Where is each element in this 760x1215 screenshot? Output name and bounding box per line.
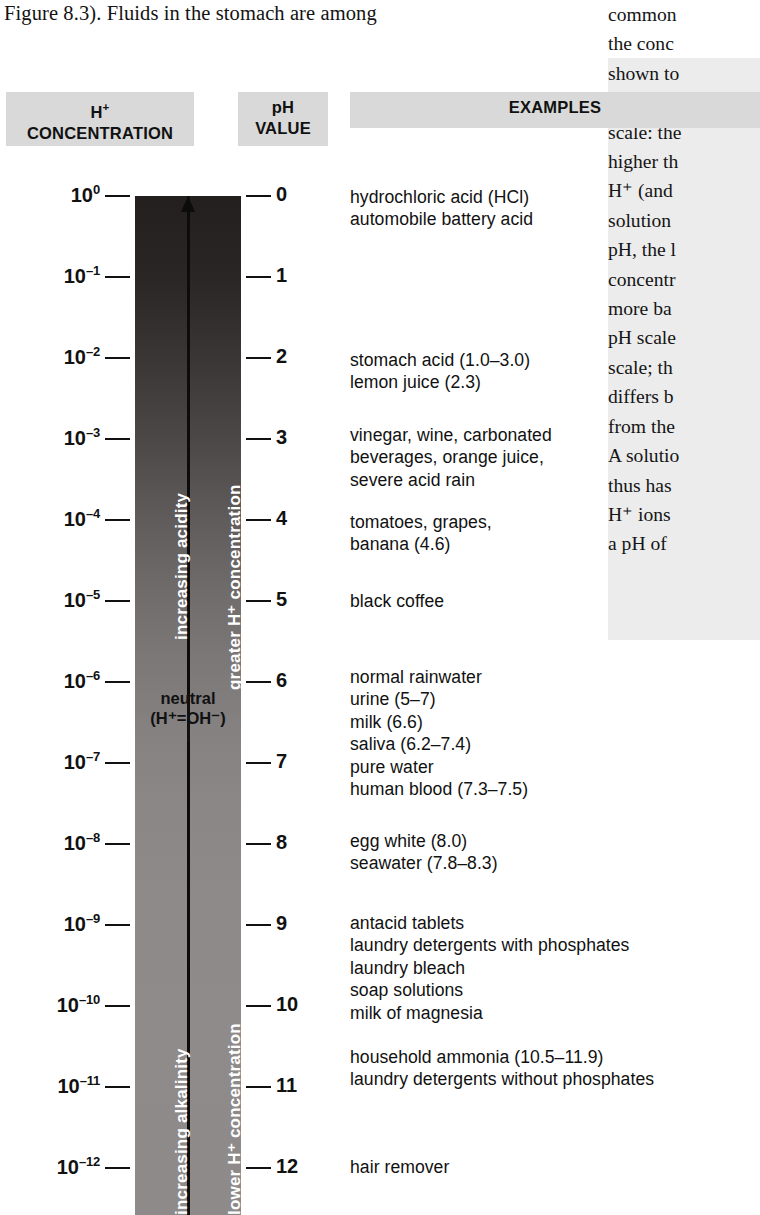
tick-right [246, 1086, 271, 1088]
concentration-exponent: –3 [86, 425, 100, 440]
concentration-label: 10–9 [0, 911, 100, 936]
concentration-exponent: –1 [86, 263, 100, 278]
example-line: black coffee [350, 590, 760, 612]
ph-value-label: 9 [276, 912, 322, 935]
example-block: tomatoes, grapes,banana (4.6) [350, 511, 760, 556]
ph-value-label: 3 [276, 426, 322, 449]
example-line: beverages, orange juice, [350, 446, 760, 468]
tick-left [105, 1005, 130, 1007]
concentration-mantissa: 10 [64, 832, 86, 854]
concentration-label: 10–7 [0, 749, 100, 774]
example-line: hydrochloric acid (HCl) [350, 186, 760, 208]
example-block: hydrochloric acid (HCl)automobile batter… [350, 186, 760, 231]
tick-right [246, 762, 271, 764]
example-block: vinegar, wine, carbonatedbeverages, oran… [350, 424, 760, 491]
label-greater-h-concentration: greater H⁺ concentration [224, 484, 245, 690]
concentration-mantissa: 10 [64, 346, 86, 368]
concentration-exponent: –2 [86, 344, 100, 359]
concentration-mantissa: 10 [57, 994, 79, 1016]
increasing-acidity-arrow-head [181, 196, 195, 212]
concentration-mantissa: 10 [71, 184, 93, 206]
concentration-mantissa: 10 [64, 589, 86, 611]
ph-value-label: 8 [276, 831, 322, 854]
concentration-mantissa: 10 [64, 913, 86, 935]
example-line: egg white (8.0) [350, 830, 760, 852]
example-block: hair remover [350, 1156, 760, 1178]
example-line: milk of magnesia [350, 1002, 760, 1024]
tick-right [246, 438, 271, 440]
example-line: laundry bleach [350, 957, 760, 979]
tick-right [246, 600, 271, 602]
label-increasing-acidity: increasing acidity [172, 493, 192, 640]
concentration-mantissa: 10 [64, 265, 86, 287]
concentration-label: 10–4 [0, 506, 100, 531]
tick-left [105, 681, 130, 683]
example-block: black coffee [350, 590, 760, 612]
example-line: household ammonia (10.5–11.9) [350, 1046, 760, 1068]
ph-value-label: 4 [276, 507, 322, 530]
example-line: laundry detergents with phosphates [350, 934, 760, 956]
ph-value-label: 1 [276, 264, 322, 287]
example-line: antacid tablets [350, 912, 760, 934]
concentration-label: 10–10 [0, 992, 100, 1017]
neutral-callout: neutral (H⁺=OH⁻) [135, 688, 241, 728]
label-lower-h-concentration: lower H⁺ concentration [224, 1023, 245, 1215]
label-increasing-alkalinity: increasing alkalinity [172, 1048, 192, 1215]
ph-value-label: 7 [276, 750, 322, 773]
example-line: banana (4.6) [350, 533, 760, 555]
concentration-mantissa: 10 [57, 1075, 79, 1097]
concentration-label: 10–8 [0, 830, 100, 855]
concentration-exponent: –4 [86, 506, 100, 521]
tick-left [105, 519, 130, 521]
ph-scale-figure: increasing acidity greater H⁺ concentrat… [0, 0, 760, 1215]
tick-right [246, 843, 271, 845]
example-block: stomach acid (1.0–3.0)lemon juice (2.3) [350, 349, 760, 394]
example-line: milk (6.6) [350, 711, 760, 733]
example-line: saliva (6.2–7.4) [350, 733, 760, 755]
example-line: vinegar, wine, carbonated [350, 424, 760, 446]
tick-right [246, 924, 271, 926]
concentration-exponent: –9 [86, 911, 100, 926]
ph-value-label: 0 [276, 183, 322, 206]
neutral-label: neutral [160, 689, 215, 707]
tick-right [246, 357, 271, 359]
example-line: hair remover [350, 1156, 760, 1178]
concentration-exponent: –7 [86, 749, 100, 764]
tick-right [246, 519, 271, 521]
tick-left [105, 195, 130, 197]
ph-value-label: 6 [276, 669, 322, 692]
example-line: lemon juice (2.3) [350, 371, 760, 393]
example-line: pure water [350, 756, 760, 778]
concentration-exponent: –12 [79, 1154, 100, 1169]
concentration-exponent: –8 [86, 830, 100, 845]
ph-value-label: 5 [276, 588, 322, 611]
concentration-exponent: 0 [93, 182, 100, 197]
concentration-exponent: –6 [86, 668, 100, 683]
example-line: soap solutions [350, 979, 760, 1001]
concentration-label: 10–2 [0, 344, 100, 369]
tick-right [246, 195, 271, 197]
concentration-mantissa: 10 [64, 751, 86, 773]
concentration-label: 100 [0, 182, 100, 207]
example-line: severe acid rain [350, 469, 760, 491]
ph-value-label: 12 [276, 1155, 322, 1178]
example-line: laundry detergents without phosphates [350, 1068, 760, 1090]
example-block: egg white (8.0)seawater (7.8–8.3) [350, 830, 760, 875]
ph-value-label: 10 [276, 993, 322, 1016]
tick-right [246, 276, 271, 278]
example-block: antacid tabletslaundry detergents with p… [350, 912, 760, 1024]
tick-left [105, 924, 130, 926]
concentration-label: 10–1 [0, 263, 100, 288]
concentration-label: 10–5 [0, 587, 100, 612]
concentration-exponent: –5 [86, 587, 100, 602]
concentration-mantissa: 10 [64, 670, 86, 692]
example-block: normal rainwaterurine (5–7)milk (6.6)sal… [350, 666, 760, 800]
example-line: automobile battery acid [350, 208, 760, 230]
concentration-exponent: –11 [80, 1073, 100, 1088]
concentration-mantissa: 10 [64, 508, 86, 530]
example-line: stomach acid (1.0–3.0) [350, 349, 760, 371]
example-line: urine (5–7) [350, 688, 760, 710]
tick-right [246, 1167, 271, 1169]
tick-left [105, 1086, 130, 1088]
concentration-mantissa: 10 [57, 1156, 79, 1178]
